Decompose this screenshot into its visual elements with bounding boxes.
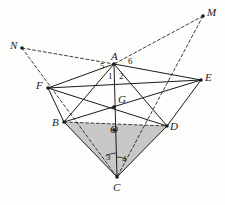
vertex-dot-D [165, 124, 169, 128]
angle-label-ang6: 6 [128, 57, 133, 66]
vertex-label-F: F [36, 80, 43, 91]
vertex-label-A: A [111, 51, 118, 62]
edge-M-C [117, 16, 203, 177]
vertex-dot-B [62, 120, 66, 124]
vertex-dot-A [112, 62, 116, 66]
angle-label-ang5: 5 [100, 62, 105, 71]
vertex-dot-N [20, 46, 24, 50]
vertex-dot-G [112, 105, 116, 109]
vertex-label-E: E [205, 72, 212, 83]
vertex-dot-E [199, 78, 203, 82]
vertex-label-M: M [207, 7, 216, 18]
vertex-label-D: D [170, 121, 178, 132]
geometry-figure: NMAFEGBDOC123456 [0, 0, 225, 205]
vertex-label-B: B [52, 117, 59, 128]
geometry-canvas [0, 0, 225, 205]
vertex-dot-C [115, 175, 119, 179]
vertex-label-O: O [110, 124, 118, 135]
vertex-label-C: C [113, 182, 120, 193]
vertex-label-G: G [118, 94, 126, 105]
vertex-label-N: N [10, 40, 17, 51]
vertex-dot-M [201, 14, 205, 18]
edge-A-E [114, 64, 201, 80]
vertex-dot-F [46, 86, 50, 90]
angle-label-ang1: 1 [108, 72, 113, 81]
angle-label-ang2: 2 [119, 72, 124, 81]
angle-label-ang4: 4 [122, 155, 127, 164]
angle-label-ang3: 3 [106, 153, 111, 162]
